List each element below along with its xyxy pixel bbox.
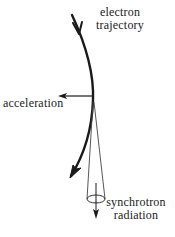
radiation-arrow bbox=[93, 183, 99, 219]
electron-trajectory-label: electron trajectory bbox=[84, 6, 156, 32]
radiation-label-line2: radiation bbox=[100, 209, 172, 222]
synchrotron-radiation-label: synchrotron radiation bbox=[100, 196, 172, 222]
trajectory-label-line2: trajectory bbox=[84, 19, 156, 32]
acceleration-label: acceleration bbox=[3, 97, 63, 110]
synchrotron-diagram: electron trajectory acceleration synchro… bbox=[0, 0, 175, 237]
